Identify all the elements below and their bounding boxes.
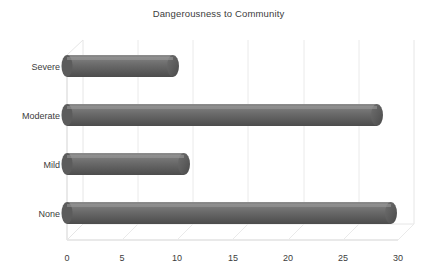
y-axis-label-none: None — [2, 209, 60, 220]
x-axis-tick-10: 10 — [163, 253, 191, 264]
x-axis-tick-20: 20 — [274, 253, 302, 264]
bar-severe — [62, 55, 180, 77]
x-axis-tick-30: 30 — [384, 253, 412, 264]
y-axis-label-mild: Mild — [2, 160, 60, 171]
x-axis-tick-0: 0 — [53, 253, 81, 264]
x-axis-tick-5: 5 — [108, 253, 136, 264]
y-axis-label-moderate: Moderate — [2, 111, 60, 122]
chart-plot-area — [0, 0, 437, 277]
x-axis-tick-15: 15 — [219, 253, 247, 264]
x-axis-tick-25: 25 — [329, 253, 357, 264]
y-axis-label-severe: Severe — [2, 62, 60, 73]
bar-moderate — [62, 104, 384, 126]
bar-mild — [62, 153, 191, 175]
chart-container: Dangerousness to Community — [0, 0, 437, 277]
bar-none — [62, 202, 398, 224]
